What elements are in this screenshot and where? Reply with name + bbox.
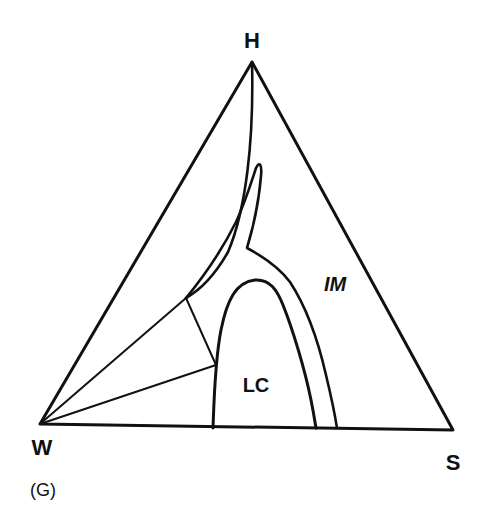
tie-line-w-to-lower: [40, 365, 216, 424]
vertex-label-s: S: [446, 450, 461, 475]
vertex-label-h: H: [244, 28, 260, 53]
region-label-lc: LC: [243, 374, 270, 396]
vertex-label-w: W: [32, 435, 53, 460]
panel-label: (G): [30, 480, 56, 500]
tie-line-w-to-upper: [40, 298, 186, 424]
ternary-diagram: H W S LC IM (G): [0, 0, 485, 526]
region-label-im: IM: [324, 273, 348, 295]
boundary-curve-from-h: [186, 62, 252, 298]
tie-line-connector: [186, 298, 216, 365]
